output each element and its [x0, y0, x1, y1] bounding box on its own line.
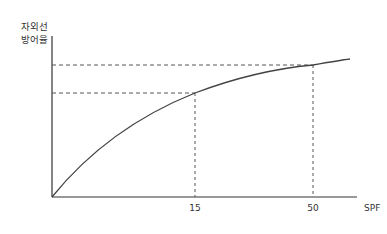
spf-protection-chart: 자외선 방어율 15 50 SPF — [0, 0, 387, 234]
protection-curve — [52, 59, 350, 197]
x-tick-15: 15 — [189, 203, 200, 213]
chart-plot — [0, 0, 387, 234]
x-axis-label: SPF — [364, 203, 380, 213]
x-tick-50: 50 — [307, 203, 318, 213]
